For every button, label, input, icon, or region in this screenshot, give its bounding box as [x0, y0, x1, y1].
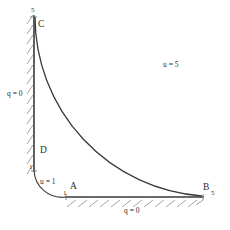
diagram-canvas: [0, 0, 230, 230]
boundary-value-problem-diagram: C D A B 5 1 1 5 q = 0 q = 0 u = 1 u = 5: [0, 0, 230, 230]
bc-label-outer-arc: u = 5: [163, 61, 178, 69]
bc-label-bottom-edge: q = 0: [124, 207, 139, 215]
bc-label-inner-arc: u = 1: [40, 178, 55, 186]
point-label-C: C: [38, 20, 44, 30]
point-label-D: D: [40, 146, 47, 156]
tick-label-inner-horizontal: 1: [63, 190, 67, 197]
arc-CB-outer: [35, 17, 202, 196]
bc-label-left-edge: q = 0: [7, 90, 22, 98]
tick-label-right: 5: [211, 190, 215, 197]
point-label-A: A: [70, 182, 77, 192]
tick-label-top: 5: [31, 7, 35, 14]
tick-label-inner-vertical: 1: [29, 164, 33, 171]
point-label-B: B: [203, 183, 209, 193]
left-wall-hatching: [27, 15, 33, 174]
